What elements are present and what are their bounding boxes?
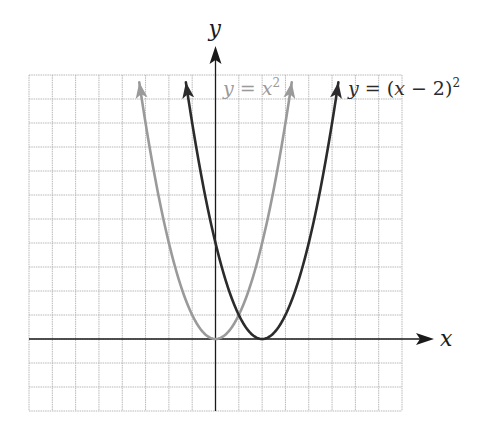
y-axis-label: y bbox=[208, 16, 222, 41]
label-part: = ( bbox=[359, 77, 394, 99]
series-0-label: y = x2 bbox=[222, 76, 280, 99]
series-1-label: y = (x − 2)2 bbox=[347, 76, 460, 99]
label-exponent: 2 bbox=[452, 76, 460, 90]
label-part: y bbox=[222, 77, 234, 99]
axes bbox=[29, 46, 434, 411]
x-axis-label: x bbox=[440, 326, 453, 351]
label-exponent: 2 bbox=[272, 76, 280, 90]
label-part: − 2) bbox=[405, 77, 453, 99]
parabola-chart: x y y = x2y = (x − 2)2 bbox=[0, 0, 492, 434]
label-part: = bbox=[234, 77, 262, 99]
label-part: y bbox=[347, 77, 359, 99]
label-part: x bbox=[394, 77, 405, 99]
label-part: x bbox=[262, 77, 273, 99]
